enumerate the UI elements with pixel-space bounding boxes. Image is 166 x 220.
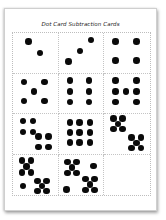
dot-card-5 <box>13 74 59 115</box>
dot-icon <box>45 133 52 140</box>
dot-card-2 <box>13 33 59 74</box>
dot-icon <box>67 119 74 126</box>
dot-card-11 <box>13 155 59 196</box>
dot-icon <box>45 144 52 151</box>
dot-icon <box>123 88 130 95</box>
dot-card-10 <box>104 114 150 155</box>
dot-icon <box>110 126 117 133</box>
dot-icon <box>43 188 50 195</box>
dot-card-12 <box>59 155 105 196</box>
dot-card-7 <box>104 74 150 115</box>
dot-icon <box>87 129 94 136</box>
dot-icon <box>63 186 70 193</box>
dot-icon <box>65 58 72 65</box>
worksheet-title: Dot Card Subtraction Cards <box>5 21 156 27</box>
dot-icon <box>76 139 83 146</box>
dot-icon <box>77 48 84 55</box>
dot-icon <box>90 163 97 170</box>
dot-icon <box>67 99 74 106</box>
dot-card-9 <box>59 114 105 155</box>
dot-icon <box>67 77 74 84</box>
dot-card-8 <box>13 114 59 155</box>
dot-icon <box>34 188 41 195</box>
dot-icon <box>35 133 42 140</box>
dot-icon <box>67 139 74 146</box>
dot-icon <box>133 77 140 84</box>
dot-icon <box>86 77 93 84</box>
dot-icon <box>35 144 42 151</box>
dot-card-4 <box>104 33 150 74</box>
dot-icon <box>25 38 32 45</box>
dot-card-empty <box>104 155 150 196</box>
dot-icon <box>133 99 140 106</box>
dot-icon <box>91 187 98 194</box>
dot-icon <box>20 129 27 136</box>
dot-icon <box>112 38 119 45</box>
dot-icon <box>64 170 71 177</box>
dot-icon <box>86 88 93 95</box>
dot-icon <box>21 98 28 105</box>
dot-icon <box>87 119 94 126</box>
dot-icon <box>87 139 94 146</box>
dot-icon <box>112 57 119 64</box>
dot-icon <box>82 187 89 194</box>
dot-icon <box>21 79 28 86</box>
dot-icon <box>133 38 140 45</box>
dot-icon <box>20 183 27 190</box>
dot-icon <box>133 57 140 64</box>
dot-icon <box>76 129 83 136</box>
dot-icon <box>119 115 126 122</box>
dot-icon <box>73 170 80 177</box>
dot-icon <box>119 126 126 133</box>
dot-icon <box>19 169 26 176</box>
dot-icon <box>112 77 119 84</box>
dot-icon <box>86 99 93 106</box>
dot-icon <box>30 118 37 125</box>
dot-card-grid <box>12 32 151 196</box>
dot-icon <box>37 50 44 57</box>
dot-icon <box>76 119 83 126</box>
dot-icon <box>128 145 135 152</box>
dot-icon <box>31 88 38 95</box>
worksheet-page: Dot Card Subtraction Cards <box>4 8 157 211</box>
dot-card-3 <box>59 33 105 74</box>
dot-icon <box>67 129 74 136</box>
dot-icon <box>67 88 74 95</box>
dot-icon <box>138 145 145 152</box>
dot-icon <box>88 37 95 44</box>
dot-icon <box>41 98 48 105</box>
dot-icon <box>112 88 119 95</box>
dot-card-6 <box>59 74 105 115</box>
dot-icon <box>28 169 35 176</box>
dot-icon <box>133 88 140 95</box>
dot-icon <box>112 99 119 106</box>
dot-icon <box>41 79 48 86</box>
dot-icon <box>20 118 27 125</box>
